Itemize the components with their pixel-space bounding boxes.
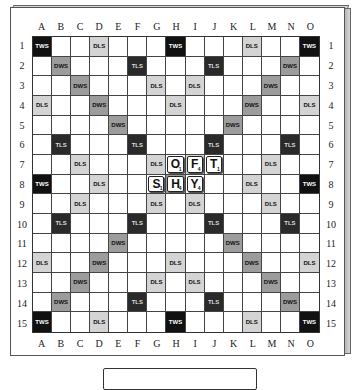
board-square-j6[interactable]: TLS bbox=[205, 135, 224, 155]
board-square-f7[interactable] bbox=[128, 155, 147, 175]
board-square-h8[interactable]: H4 bbox=[166, 175, 185, 195]
board-square-i1[interactable] bbox=[186, 37, 205, 57]
board-square-l13[interactable] bbox=[243, 273, 262, 293]
board-square-l14[interactable] bbox=[243, 293, 262, 313]
board-square-k12[interactable] bbox=[224, 253, 243, 273]
board-square-o14[interactable] bbox=[300, 293, 319, 313]
board-square-a4[interactable]: DLS bbox=[33, 96, 52, 116]
board-square-j8[interactable] bbox=[205, 175, 224, 195]
board-square-e2[interactable] bbox=[109, 57, 128, 77]
board-square-b1[interactable] bbox=[52, 37, 71, 57]
board-square-g7[interactable]: DLS bbox=[147, 155, 166, 175]
board-square-i11[interactable] bbox=[186, 234, 205, 254]
board-square-d13[interactable] bbox=[90, 273, 109, 293]
board-square-l8[interactable]: DLS bbox=[243, 175, 262, 195]
board-square-d3[interactable] bbox=[90, 76, 109, 96]
board-square-o10[interactable] bbox=[300, 214, 319, 234]
board-square-m10[interactable] bbox=[262, 214, 281, 234]
board-square-m6[interactable] bbox=[262, 135, 281, 155]
board-square-d1[interactable]: DLS bbox=[90, 37, 109, 57]
letter-tile-o[interactable]: O1 bbox=[167, 156, 183, 173]
board-square-d2[interactable] bbox=[90, 57, 109, 77]
board-square-o9[interactable] bbox=[300, 194, 319, 214]
board-square-g15[interactable] bbox=[147, 312, 166, 332]
board-square-b7[interactable] bbox=[52, 155, 71, 175]
board-square-c9[interactable]: DLS bbox=[71, 194, 90, 214]
board-square-b2[interactable]: DWS bbox=[52, 57, 71, 77]
board-square-n5[interactable] bbox=[281, 116, 300, 136]
board-square-g3[interactable]: DLS bbox=[147, 76, 166, 96]
board-square-f14[interactable]: TLS bbox=[128, 293, 147, 313]
board-square-h7[interactable]: O1 bbox=[166, 155, 185, 175]
board-square-l6[interactable] bbox=[243, 135, 262, 155]
board-square-c4[interactable] bbox=[71, 96, 90, 116]
board-square-m9[interactable]: DLS bbox=[262, 194, 281, 214]
board-square-m15[interactable] bbox=[262, 312, 281, 332]
board-square-f9[interactable] bbox=[128, 194, 147, 214]
board-square-o3[interactable] bbox=[300, 76, 319, 96]
board-square-e9[interactable] bbox=[109, 194, 128, 214]
board-square-o11[interactable] bbox=[300, 234, 319, 254]
board-square-j9[interactable] bbox=[205, 194, 224, 214]
board-square-c14[interactable] bbox=[71, 293, 90, 313]
board-square-f12[interactable] bbox=[128, 253, 147, 273]
board-square-k4[interactable] bbox=[224, 96, 243, 116]
board-square-n10[interactable]: TLS bbox=[281, 214, 300, 234]
board-square-i2[interactable] bbox=[186, 57, 205, 77]
board-square-j13[interactable] bbox=[205, 273, 224, 293]
board-square-c6[interactable] bbox=[71, 135, 90, 155]
board-square-k11[interactable]: DWS bbox=[224, 234, 243, 254]
board-square-h6[interactable] bbox=[166, 135, 185, 155]
board-square-h5[interactable] bbox=[166, 116, 185, 136]
board-square-k1[interactable] bbox=[224, 37, 243, 57]
board-square-j12[interactable] bbox=[205, 253, 224, 273]
board-square-n11[interactable] bbox=[281, 234, 300, 254]
board-square-n15[interactable] bbox=[281, 312, 300, 332]
board-square-d5[interactable] bbox=[90, 116, 109, 136]
board-square-e5[interactable]: DWS bbox=[109, 116, 128, 136]
board-square-k15[interactable] bbox=[224, 312, 243, 332]
board-square-d12[interactable]: DWS bbox=[90, 253, 109, 273]
board-square-c15[interactable] bbox=[71, 312, 90, 332]
board-square-m14[interactable] bbox=[262, 293, 281, 313]
board-square-m13[interactable]: DWS bbox=[262, 273, 281, 293]
board-square-b13[interactable] bbox=[52, 273, 71, 293]
board-square-c8[interactable] bbox=[71, 175, 90, 195]
board-square-e1[interactable] bbox=[109, 37, 128, 57]
board-square-m4[interactable] bbox=[262, 96, 281, 116]
board-square-b10[interactable]: TLS bbox=[52, 214, 71, 234]
board-square-n3[interactable] bbox=[281, 76, 300, 96]
board-square-l7[interactable] bbox=[243, 155, 262, 175]
board-square-h4[interactable]: DLS bbox=[166, 96, 185, 116]
board-square-i10[interactable] bbox=[186, 214, 205, 234]
board-square-c13[interactable]: DWS bbox=[71, 273, 90, 293]
board-square-i5[interactable] bbox=[186, 116, 205, 136]
board-square-n13[interactable] bbox=[281, 273, 300, 293]
board-square-d10[interactable] bbox=[90, 214, 109, 234]
board-square-h15[interactable]: TWS bbox=[166, 312, 185, 332]
board-square-b9[interactable] bbox=[52, 194, 71, 214]
letter-tile-t[interactable]: T1 bbox=[206, 156, 222, 173]
board-square-i13[interactable]: DLS bbox=[186, 273, 205, 293]
board-square-d11[interactable] bbox=[90, 234, 109, 254]
board-square-l5[interactable] bbox=[243, 116, 262, 136]
board-square-b4[interactable] bbox=[52, 96, 71, 116]
board-square-l15[interactable]: DLS bbox=[243, 312, 262, 332]
board-square-h1[interactable]: TWS bbox=[166, 37, 185, 57]
board-square-f1[interactable] bbox=[128, 37, 147, 57]
board-square-h11[interactable] bbox=[166, 234, 185, 254]
board-square-e4[interactable] bbox=[109, 96, 128, 116]
board-square-i3[interactable]: DLS bbox=[186, 76, 205, 96]
board-square-l4[interactable]: DWS bbox=[243, 96, 262, 116]
board-square-o5[interactable] bbox=[300, 116, 319, 136]
board-square-a14[interactable] bbox=[33, 293, 52, 313]
board-square-a9[interactable] bbox=[33, 194, 52, 214]
board-square-e8[interactable] bbox=[109, 175, 128, 195]
board-square-a1[interactable]: TWS bbox=[33, 37, 52, 57]
board-square-k9[interactable] bbox=[224, 194, 243, 214]
board-square-k3[interactable] bbox=[224, 76, 243, 96]
board-square-l11[interactable] bbox=[243, 234, 262, 254]
board-square-k7[interactable] bbox=[224, 155, 243, 175]
board-square-j5[interactable] bbox=[205, 116, 224, 136]
board-square-j14[interactable]: TLS bbox=[205, 293, 224, 313]
